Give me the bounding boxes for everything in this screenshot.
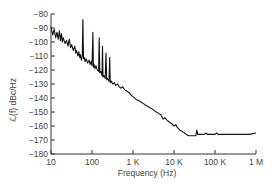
y-tick-label: −80 <box>34 9 49 19</box>
x-tick-label: 100 K <box>204 157 227 167</box>
y-axis-title: ℒ(f) dBc/Hz <box>8 78 18 122</box>
phase-noise-curve <box>51 20 256 136</box>
y-axis: −80−90−100−110−120−130−140−150−160−170−1… <box>29 9 55 159</box>
y-tick-label: −160 <box>29 121 48 131</box>
y-tick-label: −140 <box>29 93 48 103</box>
y-tick-label: −120 <box>29 65 48 75</box>
y-tick-label: −90 <box>34 23 49 33</box>
x-tick-label: 1 M <box>249 157 263 167</box>
y-tick-label: −170 <box>29 135 48 145</box>
x-tick-label: 100 <box>85 157 99 167</box>
y-tick-label: −150 <box>29 107 48 117</box>
phase-noise-chart: −80−90−100−110−120−130−140−150−160−170−1… <box>0 0 276 189</box>
y-tick-label: −100 <box>29 37 48 47</box>
x-tick-label: 1 K <box>127 157 140 167</box>
x-tick-label: 10 <box>46 157 56 167</box>
x-axis: 101001 K10 K100 K1 M <box>46 150 263 167</box>
x-tick-label: 10 K <box>165 157 183 167</box>
x-axis-title: Frequency (Hz) <box>118 168 177 178</box>
y-tick-label: −110 <box>29 51 48 61</box>
y-tick-label: −130 <box>29 79 48 89</box>
